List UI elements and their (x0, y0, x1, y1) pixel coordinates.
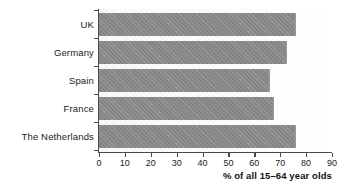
x-tick-label: 90 (321, 158, 343, 169)
bar-row (99, 41, 332, 64)
bar-row (99, 125, 332, 148)
bar (99, 125, 296, 148)
x-tick-label: 80 (295, 158, 317, 169)
y-tick-mark (94, 38, 99, 39)
y-axis-labels: UKGermanySpainFranceThe Netherlands (0, 13, 94, 149)
y-axis-label: France (0, 104, 94, 114)
bar-row (99, 13, 332, 36)
x-tick-label: 60 (243, 158, 265, 169)
x-axis-line (98, 152, 332, 153)
x-tick-label: 50 (217, 158, 239, 169)
x-tick-label: 40 (192, 158, 214, 169)
y-axis-label: Spain (0, 76, 94, 86)
x-tick-label: 30 (166, 158, 188, 169)
x-tick-label: 70 (269, 158, 291, 169)
y-tick-mark (94, 150, 99, 151)
x-tick-mark (332, 153, 333, 157)
x-tick-label: 10 (114, 158, 136, 169)
x-axis-title: % of all 15–64 year olds (150, 170, 332, 181)
x-tick-mark (99, 153, 100, 157)
y-axis-label: The Netherlands (0, 132, 94, 142)
x-tick-mark (177, 153, 178, 157)
bar-series (99, 9, 332, 152)
bar (99, 69, 270, 92)
y-axis-label: UK (0, 20, 94, 30)
x-tick-mark (280, 153, 281, 157)
x-tick-mark (228, 153, 229, 157)
bar (99, 97, 274, 120)
x-tick-mark (306, 153, 307, 157)
x-tick-mark (151, 153, 152, 157)
x-tick-mark (125, 153, 126, 157)
bar (99, 13, 296, 36)
bar-row (99, 97, 332, 120)
bar-row (99, 69, 332, 92)
y-tick-mark (94, 66, 99, 67)
bar-chart: UKGermanySpainFranceThe Netherlands 0102… (0, 0, 356, 189)
x-tick-label: 20 (140, 158, 162, 169)
x-tick-mark (203, 153, 204, 157)
y-axis-line (98, 9, 99, 153)
y-tick-mark (94, 94, 99, 95)
y-axis-label: Germany (0, 48, 94, 58)
y-tick-mark (94, 122, 99, 123)
bar (99, 41, 287, 64)
x-tick-mark (254, 153, 255, 157)
y-tick-mark (94, 10, 99, 11)
plot-area (99, 9, 332, 152)
x-tick-label: 0 (88, 158, 110, 169)
